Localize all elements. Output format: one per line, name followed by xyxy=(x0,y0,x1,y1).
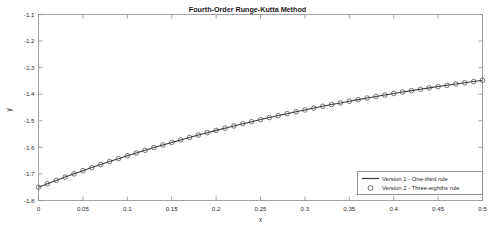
legend-label-1: Version 2 - Three-eighths rule xyxy=(382,185,460,191)
chart-canvas: Fourth-Order Runge-Kutta Method 00.050.1… xyxy=(0,0,495,243)
x-tick-label: 0.25 xyxy=(254,205,267,212)
y-tick-label: -1.8 xyxy=(24,197,35,204)
x-axis-label: x xyxy=(259,216,263,223)
figure-container: Fourth-Order Runge-Kutta Method 00.050.1… xyxy=(0,0,495,243)
y-tick-label: -1.6 xyxy=(24,144,35,151)
x-tick-label: 0.5 xyxy=(478,205,487,212)
y-tick-label: -1.2 xyxy=(24,37,35,44)
y-tick-label: -1.4 xyxy=(24,90,35,97)
y-tick-label: -1.7 xyxy=(24,170,35,177)
y-axis-label: y xyxy=(5,108,13,112)
x-tick-label: 0.2 xyxy=(212,205,221,212)
x-tick-label: 0.15 xyxy=(166,205,179,212)
x-tick-label: 0.05 xyxy=(77,205,90,212)
x-tick-label: 0.1 xyxy=(123,205,132,212)
x-tick-label: 0.45 xyxy=(432,205,445,212)
x-tick-label: 0.35 xyxy=(343,205,356,212)
y-tick-label: -1.5 xyxy=(24,117,35,124)
x-tick-label: 0.4 xyxy=(389,205,398,212)
y-tick-label: -1.1 xyxy=(24,11,35,18)
x-tick-label: 0 xyxy=(37,205,41,212)
legend-label-0: Version 1 - One-third rule xyxy=(382,176,449,182)
x-tick-label: 0.3 xyxy=(301,205,310,212)
chart-title: Fourth-Order Runge-Kutta Method xyxy=(189,5,306,14)
chart-legend[interactable]: Version 1 - One-third rule Version 2 - T… xyxy=(358,172,483,195)
y-tick-label: -1.3 xyxy=(24,64,35,71)
